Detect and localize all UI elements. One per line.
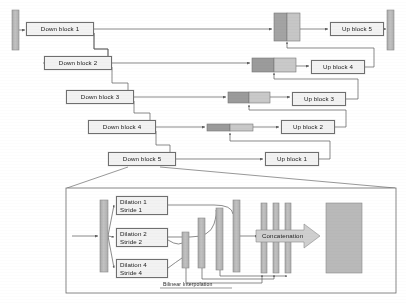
up-block-1-label: Up block 1 xyxy=(277,155,307,163)
up-block-5-label: Up block 5 xyxy=(342,25,372,33)
skip-fusion-block xyxy=(252,58,296,72)
branch-dilation-2[interactable]: Dilation 2 Stride 2 xyxy=(116,228,168,247)
branch-dilation-3[interactable]: Dilation 4 Stride 4 xyxy=(116,259,168,278)
detail-final-block xyxy=(326,203,362,273)
connector-lines xyxy=(19,29,395,188)
down-block-5-label: Down block 5 xyxy=(123,155,161,163)
up-block-3-label: Up block 3 xyxy=(304,95,334,103)
skip-fusion-block xyxy=(274,13,300,41)
branch-dilation-3-stride-label: Stride 4 xyxy=(120,269,142,277)
up-block-1[interactable]: Up block 1 xyxy=(265,152,319,166)
down-block-1-label: Down block 1 xyxy=(41,25,79,33)
skip-fusion-block xyxy=(228,92,270,103)
up-block-2-label: Up block 2 xyxy=(293,123,323,131)
up-block-4-label: Up block 4 xyxy=(323,63,353,71)
branch-dilation-3-dilation-label: Dilation 4 xyxy=(120,261,147,269)
up-block-2[interactable]: Up block 2 xyxy=(281,120,335,134)
down-block-5[interactable]: Down block 5 xyxy=(108,152,176,166)
up-block-3[interactable]: Up block 3 xyxy=(292,92,346,106)
up-block-4[interactable]: Up block 4 xyxy=(311,60,365,74)
branch-dilation-2-stride-label: Stride 2 xyxy=(120,238,142,246)
down-block-3[interactable]: Down block 3 xyxy=(66,90,134,104)
input-feature-bar xyxy=(12,10,19,50)
branch-dilation-2-dilation-label: Dilation 2 xyxy=(120,230,147,238)
down-block-3-label: Down block 3 xyxy=(81,93,119,101)
architecture-diagram xyxy=(0,0,406,303)
concatenation-label: Concatenation xyxy=(262,232,303,239)
down-block-1[interactable]: Down block 1 xyxy=(26,22,94,36)
detail-input-bar xyxy=(100,200,108,272)
branch-dilation-1-dilation-label: Dilation 1 xyxy=(120,198,147,206)
branch-dilation-1[interactable]: Dilation 1 Stride 1 xyxy=(116,196,168,215)
down-block-2[interactable]: Down block 2 xyxy=(44,56,112,70)
bilinear-interpolation-label: Bilinear Interpolation xyxy=(163,281,213,287)
up-block-5[interactable]: Up block 5 xyxy=(330,22,384,36)
down-block-4-label: Down block 4 xyxy=(103,123,141,131)
down-block-4[interactable]: Down block 4 xyxy=(88,120,156,134)
skip-fusion-block xyxy=(207,124,253,131)
branch-dilation-1-stride-label: Stride 1 xyxy=(120,206,142,214)
down-block-2-label: Down block 2 xyxy=(59,59,97,67)
output-feature-bar xyxy=(387,10,394,50)
